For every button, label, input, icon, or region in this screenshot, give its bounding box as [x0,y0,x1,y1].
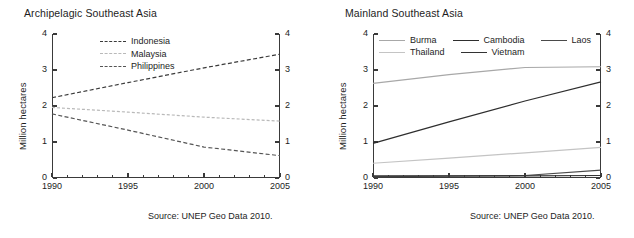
x-tick-label: 2000 [515,181,535,191]
y-tick-label: 4 [42,29,47,38]
legend-swatch-icon [100,63,126,70]
y-tick-label: 1 [42,137,47,146]
legend-item-cambodia[interactable]: Cambodia [453,35,525,45]
x-tick-label: 2005 [270,181,290,191]
y-tick-label: 1 [285,137,290,146]
legend-swatch-icon [379,49,405,56]
source-note-mainland: Source: UNEP Geo Data 2010. [470,211,594,221]
y-tick-label: 2 [42,101,47,110]
legend-row: ThailandVietnam [379,47,607,57]
panel-mainland: Mainland Southeast Asia Million hectares… [317,0,634,238]
legend-item-vietnam[interactable]: Vietnam [461,47,525,57]
series-line-philippines [52,114,280,156]
y-tick-label: 2 [363,101,368,110]
two-panel-line-chart-figure: Archipelagic Southeast Asia Million hect… [0,0,634,238]
y-tick-label: 3 [363,65,368,74]
panel-archipelagic: Archipelagic Southeast Asia Million hect… [0,0,317,238]
chart-title-mainland: Mainland Southeast Asia [345,7,463,19]
x-tick-label: 1995 [439,181,459,191]
legend-label: Laos [572,35,592,45]
y-tick-label: 2 [285,101,290,110]
legend-label: Thailand [410,47,445,57]
series-line-malaysia [52,107,280,121]
legend-swatch-icon [100,38,126,45]
legend-item-malaysia[interactable]: Malaysia [100,49,175,59]
source-note-archipelagic: Source: UNEP Geo Data 2010. [148,211,272,221]
y-axis-label-mainland: Million hectares [337,82,348,150]
legend-label: Burma [410,35,437,45]
y-tick-label: 3 [42,65,47,74]
legend-mainland: BurmaCambodiaLaosThailandVietnam [379,35,607,59]
legend-label: Indonesia [131,36,170,46]
x-tick-label: 1990 [42,181,62,191]
legend-label: Philippines [131,61,175,71]
x-tick-label: 1995 [118,181,138,191]
legend-label: Cambodia [484,35,525,45]
legend-item-indonesia[interactable]: Indonesia [100,36,175,46]
legend-label: Vietnam [492,47,525,57]
legend-item-thailand[interactable]: Thailand [379,47,445,57]
y-tick-label: 1 [363,137,368,146]
y-tick-label: 2 [606,101,611,110]
legend-item-laos[interactable]: Laos [541,35,592,45]
legend-archipelagic: IndonesiaMalaysiaPhilippines [100,36,175,74]
x-tick-label: 1990 [363,181,383,191]
y-tick-label: 1 [606,137,611,146]
legend-row: BurmaCambodiaLaos [379,35,607,45]
y-tick-label: 3 [285,65,290,74]
legend-swatch-icon [461,49,487,56]
chart-title-archipelagic: Archipelagic Southeast Asia [24,7,157,19]
series-line-burma [373,67,601,84]
y-tick-label: 4 [285,29,290,38]
legend-item-burma[interactable]: Burma [379,35,437,45]
legend-swatch-icon [379,37,405,44]
legend-swatch-icon [453,37,479,44]
y-axis-label-archipelagic: Million hectares [17,82,28,150]
series-line-cambodia [373,82,601,144]
y-tick-label: 4 [363,29,368,38]
legend-label: Malaysia [131,49,167,59]
legend-swatch-icon [541,37,567,44]
series-line-thailand [373,147,601,163]
legend-item-philippines[interactable]: Philippines [100,61,175,71]
x-tick-label: 2000 [194,181,214,191]
legend-swatch-icon [100,50,126,57]
x-tick-label: 2005 [591,181,611,191]
y-tick-label: 3 [606,65,611,74]
